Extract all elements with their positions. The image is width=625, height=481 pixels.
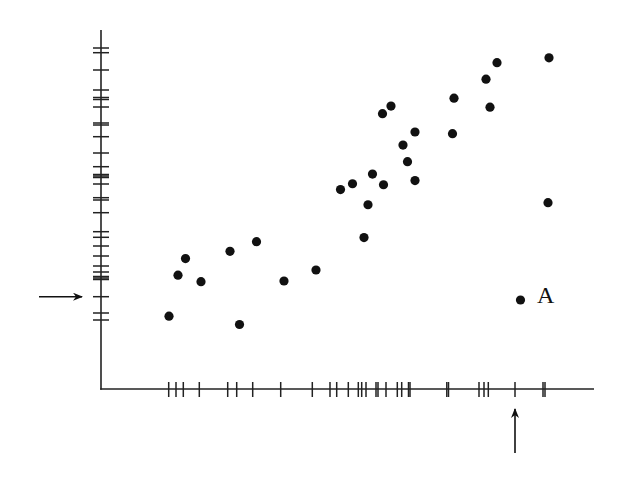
data-point [348, 179, 357, 188]
data-point [481, 75, 490, 84]
data-points [164, 53, 553, 329]
scatter-chart: A [0, 0, 625, 481]
data-point [359, 233, 368, 242]
data-point [181, 254, 190, 263]
data-point [252, 237, 261, 246]
data-point [403, 157, 412, 166]
data-point [386, 102, 395, 111]
data-point [368, 169, 377, 178]
data-point [410, 127, 419, 136]
data-point [311, 265, 320, 274]
data-point [336, 185, 345, 194]
data-point [379, 180, 388, 189]
data-point [449, 94, 458, 103]
data-point [448, 129, 457, 138]
data-point [485, 103, 494, 112]
data-point [164, 312, 173, 321]
data-point [492, 58, 501, 67]
outlier-point-a [516, 295, 525, 304]
outlier-label-a: A [537, 282, 555, 308]
data-point [544, 53, 553, 62]
data-point [196, 277, 205, 286]
data-point [279, 276, 288, 285]
data-point [225, 247, 234, 256]
data-point [543, 198, 552, 207]
data-point [378, 109, 387, 118]
data-point [173, 271, 182, 280]
data-point [398, 140, 407, 149]
data-point [410, 176, 419, 185]
data-point [235, 320, 244, 329]
data-point [363, 200, 372, 209]
